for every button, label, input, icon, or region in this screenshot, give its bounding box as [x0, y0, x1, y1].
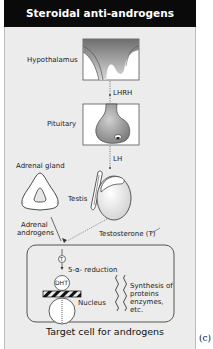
label-synthesis-1: Synthesis of: [130, 282, 173, 290]
receptor-icon: [43, 291, 81, 297]
figure-label: (c): [199, 333, 211, 343]
caption: Target cell for androgens: [30, 326, 180, 337]
label-nucleus: Nucleus: [78, 299, 106, 307]
protein-squiggle-icon: [116, 275, 119, 311]
label-adrenal-gland: Adrenal gland: [16, 162, 65, 170]
label-synthesis-2: proteins: [130, 290, 159, 298]
testis-icon: [91, 171, 131, 220]
label-lhrh: LHRH: [113, 89, 132, 97]
label-t-marker: T: [60, 255, 63, 263]
pituitary-icon: [83, 104, 139, 145]
hypothalamus-icon: [83, 39, 139, 80]
diagram-graphics: [0, 0, 213, 349]
label-hypothalamus: Hypothalamus: [27, 56, 78, 64]
adrenal-gland-icon: [22, 173, 58, 210]
label-reduction: 5-α- reduction: [68, 266, 118, 274]
label-adrenal-androgens-2: androgens: [17, 229, 54, 237]
label-synthesis-3: enzymes,: [130, 298, 164, 306]
label-lh: LH: [113, 155, 122, 163]
label-adrenal-androgens: Adrenal: [21, 221, 48, 229]
label-testis: Testis: [68, 195, 87, 203]
label-synthesis-4: etc.: [130, 306, 143, 314]
protein-squiggle-icon: [124, 275, 127, 311]
label-testosterone: Testosterone (T): [99, 230, 155, 238]
label-pituitary: Pituitary: [47, 120, 76, 128]
label-dht: DHT: [55, 279, 68, 287]
